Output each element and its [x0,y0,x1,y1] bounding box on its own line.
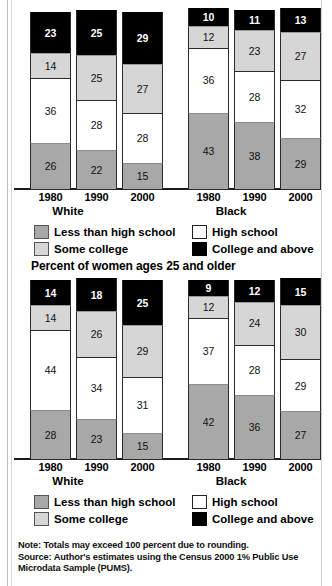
legend-item: High school [192,495,278,509]
bar-segment: 28 [234,71,275,121]
plot-area-men: 2314362625252822292728151012364311232838… [14,8,321,190]
note-line-1: Note: Totals may exceed 100 percent due … [18,540,318,552]
legend-label: Some college [54,513,128,525]
bar-segment: 25 [76,55,117,100]
bar-segment-value: 27 [295,430,307,441]
legend-swatch-icon [34,242,49,256]
bar-segment-value: 28 [137,133,149,144]
bar-segment-value: 26 [91,329,103,340]
legend-label: Some college [54,243,128,255]
bar-segment-value: 29 [137,346,149,357]
legend-item: Less than high school [34,495,175,509]
bar-segment-value: 42 [203,417,215,428]
bar-segment-value: 23 [45,28,57,39]
legend-swatch-icon [34,512,49,526]
x-tick-label: 1990 [234,461,275,473]
bar-segment-value: 36 [249,422,261,433]
group-label-white: White [23,205,113,217]
bar-segment-value: 38 [249,151,261,162]
bar-segment: 44 [30,330,71,409]
bar-segment-value: 14 [45,313,57,324]
bar-segment-value: 28 [249,92,261,103]
legend-label: High school [212,496,278,508]
bar-segment-value: 27 [137,84,149,95]
bar-segment: 12 [188,296,229,318]
bar-segment: 25 [76,10,117,55]
bar-segment-value: 23 [91,434,103,445]
bar-segment: 9 [188,280,229,296]
bar-segment-value: 31 [137,400,149,411]
bar-segment-value: 12 [203,302,215,313]
legend-label: College and above [212,513,314,525]
bar-segment-value: 32 [295,104,307,115]
stacked-bar: 29272815 [122,12,163,190]
bar-segment-value: 15 [137,171,149,182]
bar-segment: 23 [30,12,71,53]
x-tick-label: 1990 [76,191,117,203]
stacked-bar: 18263423 [76,278,117,460]
x-tick-label: 1990 [76,461,117,473]
bar-segment-value: 12 [249,286,261,297]
legend-swatch-icon [192,225,207,239]
stacked-bar: 13273229 [280,8,321,190]
bar-segment-value: 26 [45,161,57,172]
bar-segment-value: 14 [45,61,57,72]
bar-segment-value: 15 [137,441,149,452]
bar-segment: 36 [188,48,229,113]
legend-swatch-icon [192,512,207,526]
source-line-2: Microdata Sample (PUMS). [18,563,318,575]
bar-segment-value: 29 [295,381,307,392]
bar-segment: 29 [280,138,321,190]
bar-segment: 25 [122,280,163,325]
bar-segment-value: 27 [295,51,307,62]
bar-segment-value: 30 [295,327,307,338]
stacked-bar: 9123742 [188,280,229,460]
bar-segment: 18 [76,278,117,310]
bar-segment: 36 [30,78,71,143]
section-title-women: Percent of women ages 25 and older [31,259,236,273]
group-label-white: White [23,475,113,487]
group-labels-men: White Black [14,205,321,221]
bar-segment: 28 [122,113,163,163]
bar-segment: 27 [280,411,321,460]
bar-segment: 42 [188,384,229,460]
x-tick-label: 1990 [234,191,275,203]
chart-women: 1414442818263423252931159123742122428361… [14,278,321,531]
stacked-bar: 25293115 [122,280,163,460]
bar-segment-value: 36 [203,75,215,86]
x-tick-labels-men: 198019902000198019902000 [14,190,321,205]
x-tick-label: 2000 [280,461,321,473]
x-tick-labels-women: 198019902000198019902000 [14,460,321,475]
legend-item: College and above [192,242,314,256]
page-border-left [7,0,8,586]
bar-segment: 15 [122,163,163,190]
bar-segment: 32 [280,80,321,138]
bar-segment: 28 [234,345,275,395]
bar-segment: 43 [188,113,229,190]
bar-segment: 12 [188,26,229,48]
legend-swatch-icon [192,495,207,509]
bar-segment-value: 18 [91,290,103,301]
bar-segment: 29 [122,12,163,64]
bar-segment: 15 [122,433,163,460]
bar-segment: 26 [30,143,71,190]
stacked-bar: 23143626 [30,12,71,190]
bar-segment-value: 25 [91,28,103,39]
bar-segment-value: 36 [45,106,57,117]
stacked-bar: 14144428 [30,280,71,460]
group-labels-women: White Black [14,475,321,491]
legend-item: High school [192,225,278,239]
bar-segment-value: 25 [91,73,103,84]
chart-men: 2314362625252822292728151012364311232838… [14,8,321,261]
legend-label: College and above [212,243,314,255]
bar-segment: 28 [30,410,71,460]
bar-segment: 28 [76,100,117,150]
legend-swatch-icon [34,225,49,239]
bar-segment-value: 15 [295,287,307,298]
note-and-source: Note: Totals may exceed 100 percent due … [18,540,318,575]
bar-segment-value: 34 [91,383,103,394]
legend-label: Less than high school [54,496,175,508]
legend-swatch-icon [192,242,207,256]
bar-segment-value: 11 [249,15,260,26]
x-tick-label: 1980 [30,461,71,473]
